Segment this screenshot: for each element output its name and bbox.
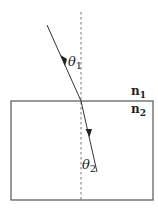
theta1-label: θ1 bbox=[68, 54, 82, 71]
n2-label: n2 bbox=[131, 102, 146, 118]
refraction-diagram: θ1 θ2 n1 n2 bbox=[0, 0, 158, 212]
n1-label: n1 bbox=[131, 84, 146, 100]
incident-arrow-icon bbox=[61, 55, 68, 66]
